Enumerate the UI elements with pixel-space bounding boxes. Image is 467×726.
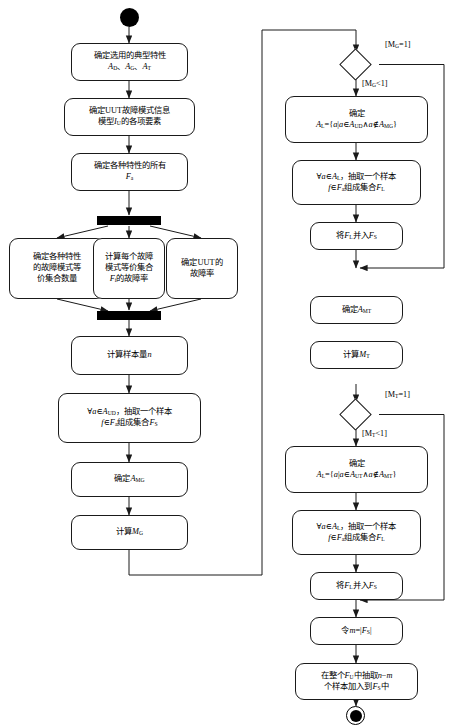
- p2-line1: 计算每个故障: [105, 252, 153, 261]
- activity-determine-uut-fault-rate[interactable]: 确定UUT的 故障率: [166, 238, 238, 299]
- n6-var-sub: MG: [136, 477, 145, 483]
- d2-yes-tail: =1]: [398, 390, 409, 399]
- p1-line3: 价集合数量: [37, 274, 77, 283]
- r5-var-sub: T: [366, 353, 369, 359]
- r10-pre: 在整个: [321, 671, 345, 680]
- n4-var: n: [147, 350, 151, 359]
- r10-m: m: [386, 671, 392, 680]
- flowchart-canvas: 确定选用的典型特性 AD、AG、AT 确定UUT故障模式信息 模型IU的各项要素…: [0, 0, 467, 726]
- decision-mt-label-equal: [MT=1]: [385, 390, 410, 399]
- activity-compute-mt[interactable]: 计算MT: [310, 341, 403, 369]
- n7-var-sub: G: [139, 530, 143, 536]
- p3-line2: 故障率: [190, 269, 214, 278]
- p1-line2: 的故障模式等: [33, 263, 81, 272]
- d1-no-tail: <1]: [376, 79, 387, 88]
- n1-a-t-sub: T: [147, 65, 150, 71]
- activity-sample-from-al-2[interactable]: ∀a∈AL，抽取一个样本 f∈Fa组成集合FL: [292, 510, 421, 555]
- n7-var: M: [132, 527, 139, 536]
- activity-determine-all-characteristics[interactable]: 确定各种特性的所有 Fa: [71, 153, 188, 191]
- decision-mt-label-less: [MT<1]: [362, 429, 387, 438]
- final-node: [350, 710, 362, 722]
- activity-determine-amg[interactable]: 确定AMG: [71, 462, 188, 497]
- r9-close: |: [370, 626, 372, 635]
- r8-fs-sub: S: [374, 584, 377, 590]
- join-bar: [97, 311, 161, 320]
- n5-set-sub: UD: [108, 410, 116, 416]
- activity-determine-uut-fault-mode-model[interactable]: 确定UUT故障模式信息 模型IU的各项要素: [64, 98, 195, 136]
- r1-s2-sub: MG: [384, 123, 393, 129]
- r2-mid: 组成集合: [344, 183, 376, 192]
- d2-no-text: [M: [362, 429, 372, 438]
- n2-line1: 确定UUT故障模式信息: [89, 106, 170, 115]
- decision-mt[interactable]: [339, 398, 372, 431]
- activity-draw-remaining-samples[interactable]: 在整个FU中抽取n−m 个样本加入到FS中: [295, 663, 418, 700]
- n5-line1-post: ，抽取一个样本: [116, 407, 172, 416]
- r6-s1-sub: UT: [355, 473, 363, 479]
- start-node: [120, 8, 139, 27]
- r8-pre: 将: [336, 581, 344, 590]
- r6-line1: 确定: [349, 459, 365, 468]
- r6-eq: ={: [325, 470, 334, 479]
- p1-line1: 确定各种特性: [33, 252, 81, 261]
- decision-mg-label-less: [MG<1]: [362, 79, 388, 88]
- activity-sample-from-aud[interactable]: ∀a∈AUD，抽取一个样本 f∈Fa组成集合FS: [58, 393, 201, 443]
- r2-line1-post: ，抽取一个样本: [340, 172, 396, 181]
- decision-mg-label-equal: [MG=1]: [385, 40, 411, 49]
- r10-line2-post: 中: [381, 682, 389, 691]
- n6-pre: 确定: [114, 474, 130, 483]
- n7-pre: 计算: [116, 527, 132, 536]
- activity-compute-mg[interactable]: 计算MG: [71, 515, 188, 550]
- n2-line2-post: 的各项要素: [121, 117, 161, 126]
- decision-mg[interactable]: [339, 48, 372, 81]
- n3-var-sub: a: [131, 175, 134, 181]
- r1-close: }: [393, 120, 397, 129]
- n3-line1: 确定各种特性的所有: [94, 161, 166, 170]
- fork-bar: [97, 216, 161, 225]
- r5-pre: 计算: [343, 350, 359, 359]
- activity-compute-sample-size[interactable]: 计算样本量n: [71, 336, 188, 375]
- n5-fs-sub: S: [154, 421, 157, 427]
- r2-fl-sub: L: [381, 186, 384, 192]
- r3-pre: 将: [336, 231, 344, 240]
- p2-line2: 模式等价集合: [105, 263, 153, 272]
- r7-line1-post: ，抽取一个样本: [340, 522, 396, 531]
- n1-line1: 确定选用的典型特性: [94, 51, 166, 60]
- d2-no-tail: <1]: [375, 429, 386, 438]
- activity-determine-equivalence-set-count[interactable]: 确定各种特性 的故障模式等 价集合数量: [9, 238, 105, 299]
- r4-pre: 确定: [342, 305, 358, 314]
- activity-merge-fl-into-fs-1[interactable]: 将FL并入FS: [310, 222, 403, 250]
- r4-var-sub: MT: [363, 308, 371, 314]
- r1-s1-sub: UD: [354, 123, 362, 129]
- activity-determine-amt[interactable]: 确定AMT: [310, 296, 403, 324]
- r6-close: }: [392, 470, 396, 479]
- d1-yes-text: [M: [385, 40, 395, 49]
- activity-sample-from-al-1[interactable]: ∀a∈AL，抽取一个样本 f∈Fa组成集合FL: [292, 160, 421, 205]
- r1-eq: ={: [324, 120, 333, 129]
- r1-line1: 确定: [349, 109, 365, 118]
- r7-fl-sub: L: [381, 536, 384, 542]
- activity-determine-al-from-aut[interactable]: 确定 AL={a|a∈AUT∧a∉AMT}: [285, 446, 428, 493]
- activity-compute-fault-rate-per-set[interactable]: 计算每个故障 模式等价集合 Fi的故障率: [93, 238, 165, 299]
- r3-mid: 并入: [353, 231, 369, 240]
- d2-yes-text: [M: [385, 390, 395, 399]
- r10-mid: 中抽取: [354, 671, 378, 680]
- n2-line2-pre: 模型: [98, 117, 114, 126]
- d1-yes-tail: =1]: [399, 40, 410, 49]
- d1-no-text: [M: [362, 79, 372, 88]
- r8-mid: 并入: [353, 581, 369, 590]
- n4-pre: 计算样本量: [107, 350, 147, 359]
- n5-mid: 组成集合: [117, 418, 149, 427]
- r3-fs-sub: S: [374, 234, 377, 240]
- p3-line1: 确定UUT的: [181, 258, 222, 267]
- activity-set-m-equals-fs-size[interactable]: 令m=|FS|: [310, 617, 403, 645]
- r10-line2-pre: 个样本加入到: [324, 682, 372, 691]
- p2-line3-post: 的故障率: [116, 274, 148, 283]
- activity-determine-typical-characteristics[interactable]: 确定选用的典型特性 AD、AG、AT: [71, 43, 188, 81]
- activity-determine-al-from-aud[interactable]: 确定 AL={a|a∈AUD∧a∉AMG}: [285, 96, 428, 143]
- activity-merge-fl-into-fs-2[interactable]: 将FL并入FS: [310, 572, 403, 600]
- r7-mid: 组成集合: [344, 533, 376, 542]
